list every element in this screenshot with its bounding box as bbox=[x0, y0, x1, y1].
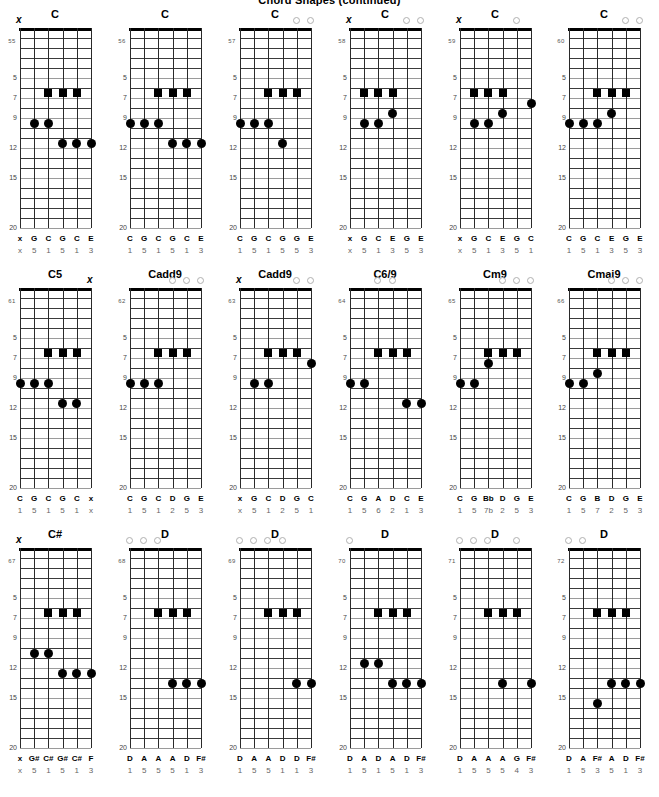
fret-number: 9 bbox=[112, 634, 127, 641]
string-line bbox=[460, 548, 461, 748]
diagram-number: 72 bbox=[549, 558, 565, 564]
string-line bbox=[421, 288, 422, 488]
fret-line bbox=[460, 678, 531, 679]
root-note-marker bbox=[374, 89, 382, 97]
string-line bbox=[63, 548, 64, 748]
fret-line bbox=[460, 78, 531, 79]
fret-line bbox=[350, 558, 421, 559]
fret-number: 15 bbox=[332, 694, 347, 701]
note-marker bbox=[579, 379, 588, 388]
fret-line bbox=[350, 748, 421, 749]
nut bbox=[459, 548, 532, 551]
string-line bbox=[34, 288, 35, 488]
fret-line bbox=[130, 418, 201, 419]
fret-line bbox=[130, 718, 201, 719]
note-marker bbox=[154, 379, 163, 388]
chord-diagram[interactable]: C57579121520CGCGGE151553 bbox=[220, 8, 330, 266]
fret-line bbox=[20, 618, 91, 619]
chord-diagram[interactable]: C#67579121520xxG#C#G#C#Fx51513 bbox=[0, 528, 110, 786]
fret-line bbox=[569, 748, 640, 749]
fret-line bbox=[240, 748, 311, 749]
chord-diagram[interactable]: D72579121520DAF#ADF#153513 bbox=[549, 528, 659, 786]
note-name-labels: xG#C#G#C#F bbox=[20, 754, 91, 766]
scale-degree-labels: 153513 bbox=[569, 766, 640, 778]
note-name-label: E bbox=[520, 494, 542, 503]
string-line bbox=[20, 288, 21, 488]
fret-line bbox=[569, 108, 640, 109]
chord-diagram[interactable]: D69579121520DAADDF#155113 bbox=[220, 528, 330, 786]
note-marker bbox=[374, 119, 383, 128]
fret-line bbox=[20, 588, 91, 589]
chord-diagram[interactable]: D68579121520DAAADF#155513 bbox=[110, 528, 220, 786]
scale-degree-label: 3 bbox=[629, 766, 651, 775]
fret-number: 7 bbox=[112, 94, 127, 101]
fret-number: 7 bbox=[442, 354, 457, 361]
fret-line bbox=[130, 218, 201, 219]
string-line bbox=[144, 548, 145, 748]
fret-line bbox=[240, 108, 311, 109]
fret-line bbox=[350, 478, 421, 479]
note-name-labels: DAF#ADF# bbox=[569, 754, 640, 766]
chord-diagram[interactable]: C561579121520xCGCGCx15151x bbox=[0, 268, 110, 526]
fret-number: 9 bbox=[442, 114, 457, 121]
fret-line bbox=[240, 378, 311, 379]
string-line bbox=[144, 288, 145, 488]
open-string-circle-icon bbox=[499, 277, 506, 284]
chord-diagram[interactable]: C55579121520xxGCGCEx51513 bbox=[0, 8, 110, 266]
string-line bbox=[378, 288, 379, 488]
string-line bbox=[254, 288, 255, 488]
chord-chart-page: Chord Shapes (continued) C55579121520xxG… bbox=[0, 0, 659, 797]
fret-number: 15 bbox=[551, 434, 566, 441]
fret-line bbox=[240, 328, 311, 329]
chord-diagram[interactable]: D70579121520DADADF#151513 bbox=[330, 528, 440, 786]
string-line bbox=[407, 288, 408, 488]
string-line bbox=[393, 28, 394, 228]
open-string-circle-icon bbox=[636, 277, 643, 284]
chord-diagram[interactable]: D71579121520DAAAGF#155543 bbox=[440, 528, 550, 786]
fret-number: 12 bbox=[112, 664, 127, 671]
chord-diagram[interactable]: C59579121520xxGCEGCx51351 bbox=[440, 8, 550, 266]
string-line bbox=[350, 288, 351, 488]
note-marker bbox=[593, 369, 602, 378]
fret-line bbox=[130, 38, 201, 39]
string-line bbox=[144, 28, 145, 228]
root-note-marker bbox=[499, 349, 507, 357]
fret-number: 12 bbox=[442, 144, 457, 151]
chord-diagram[interactable]: Cadd962579121520CGCDGE151253 bbox=[110, 268, 220, 526]
fretboard: 579121520 bbox=[350, 548, 421, 748]
note-marker bbox=[374, 659, 383, 668]
fret-line bbox=[20, 228, 91, 229]
root-note-marker bbox=[484, 609, 492, 617]
fret-number: 15 bbox=[551, 694, 566, 701]
root-note-marker bbox=[44, 89, 52, 97]
chord-diagram[interactable]: Cm965579121520CGBbDGE157b253 bbox=[440, 268, 550, 526]
chord-diagram[interactable]: C58579121520xxGCEGEx51353 bbox=[330, 8, 440, 266]
root-note-marker bbox=[293, 89, 301, 97]
nut bbox=[239, 548, 312, 551]
note-marker bbox=[58, 139, 67, 148]
note-marker bbox=[72, 139, 81, 148]
fret-number: 12 bbox=[222, 404, 237, 411]
chord-diagram[interactable]: C60579121520CGCEGE151353 bbox=[549, 8, 659, 266]
chord-diagram[interactable]: C6/964579121520CGADCE156213 bbox=[330, 268, 440, 526]
muted-string-x-icon: x bbox=[16, 535, 22, 545]
note-marker bbox=[484, 119, 493, 128]
fret-number: 20 bbox=[551, 224, 566, 231]
fret-line bbox=[350, 728, 421, 729]
note-marker bbox=[44, 119, 53, 128]
fret-line bbox=[20, 78, 91, 79]
string-line bbox=[488, 288, 489, 488]
fret-number: 20 bbox=[2, 744, 17, 751]
note-name-labels: xGCEGE bbox=[350, 234, 421, 246]
chord-diagram[interactable]: Cadd963579121520xxGCDGCx51251 bbox=[220, 268, 330, 526]
open-string-circle-icon bbox=[608, 277, 615, 284]
fret-line bbox=[350, 638, 421, 639]
fret-line bbox=[130, 158, 201, 159]
chord-diagram[interactable]: C56579121520CGCGCE151513 bbox=[110, 8, 220, 266]
chord-diagram[interactable]: Cmaj966579121520CGBDGE157253 bbox=[549, 268, 659, 526]
root-note-marker bbox=[73, 349, 81, 357]
string-line bbox=[378, 28, 379, 228]
string-line bbox=[240, 28, 241, 228]
scale-degree-labels: 15151x bbox=[20, 506, 91, 518]
fret-number: 12 bbox=[551, 404, 566, 411]
